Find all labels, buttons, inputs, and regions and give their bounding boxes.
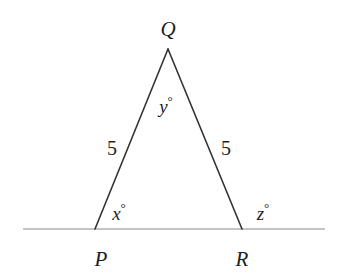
side-length-label-pq: 5 [107, 138, 117, 158]
geometry-figure: Q P R 5 5 y° x° z° [0, 0, 348, 279]
side-length-label-qr: 5 [221, 138, 231, 158]
vertex-label-p: P [95, 249, 108, 270]
degree-symbol-z: ° [264, 200, 269, 215]
triangle-drawing [0, 0, 348, 279]
angle-label-base-x: x° [112, 204, 126, 223]
degree-symbol-x: ° [121, 200, 126, 215]
angle-label-apex-y: y° [159, 97, 173, 116]
degree-symbol-y: ° [168, 93, 173, 108]
vertex-label-q: Q [160, 19, 175, 40]
angle-label-base-z: z° [257, 204, 270, 223]
vertex-label-r: R [236, 249, 249, 270]
segment-pq [95, 49, 168, 229]
